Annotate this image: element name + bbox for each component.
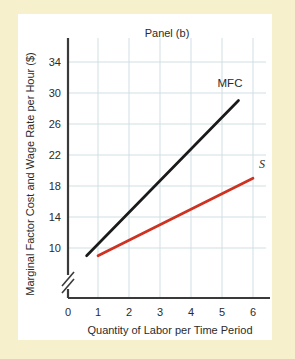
x-axis-title: Quantity of Labor per Time Period — [87, 324, 252, 336]
y-tick-label-26: 26 — [49, 118, 61, 130]
chart-plot: Panel (b) 34 30 26 22 18 14 10 0 1 2 3 4… — [18, 14, 272, 340]
x-tick-label-4: 4 — [188, 306, 194, 318]
x-tick-label-1: 1 — [95, 306, 101, 318]
y-tick-label-30: 30 — [49, 87, 61, 99]
figure-root: Panel (b) 34 30 26 22 18 14 10 0 1 2 3 4… — [0, 0, 295, 359]
chart-card: Panel (b) 34 30 26 22 18 14 10 0 1 2 3 4… — [18, 14, 272, 340]
x-tick-label-0: 0 — [65, 306, 71, 318]
y-tick-label-10: 10 — [49, 242, 61, 254]
y-tick-label-18: 18 — [49, 180, 61, 192]
x-tick-label-6: 6 — [250, 306, 256, 318]
y-tick-label-22: 22 — [49, 149, 61, 161]
x-tick-label-3: 3 — [157, 306, 163, 318]
y-axis-title: Marginal Factor Cost and Wage Rate per H… — [24, 52, 36, 296]
series-label-mfc: MFC — [218, 77, 243, 89]
x-tick-label-2: 2 — [126, 306, 132, 318]
panel-title: Panel (b) — [145, 27, 190, 39]
series-label-s: S — [259, 157, 265, 171]
y-tick-label-34: 34 — [49, 56, 61, 68]
x-tick-label-5: 5 — [219, 306, 225, 318]
y-tick-label-14: 14 — [49, 211, 61, 223]
